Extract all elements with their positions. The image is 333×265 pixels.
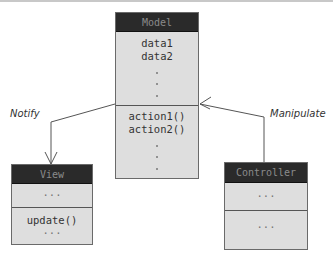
view-class-title: View (12, 165, 92, 184)
view-methods-section: update() ... (12, 207, 92, 244)
controller-attributes-section: ... (225, 183, 307, 210)
model-attribute: data1 (116, 37, 198, 49)
view-attributes-section: ... (12, 184, 92, 207)
view-methods-placeholder: ... (12, 224, 92, 236)
model-class-title: Model (116, 13, 198, 32)
view-class-box: View ... update() ... (11, 164, 93, 245)
controller-class-title: Controller (225, 163, 307, 183)
model-class-box: Model data1 data2 action1() action2() (115, 12, 199, 179)
ellipsis-dot (156, 83, 158, 85)
model-method: action1() (116, 110, 198, 122)
ellipsis-dot (156, 156, 158, 158)
model-attributes-section: data1 data2 (116, 32, 198, 105)
notify-edge-label: Notify (10, 108, 40, 119)
manipulate-edge-label: Manipulate (270, 108, 326, 119)
controller-attributes-placeholder: ... (225, 187, 307, 199)
view-attributes-placeholder: ... (12, 186, 92, 198)
model-methods-section: action1() action2() (116, 105, 198, 178)
model-method: action2() (116, 123, 198, 135)
ellipsis-dot (156, 145, 158, 147)
controller-methods-placeholder: ... (225, 218, 307, 230)
model-attribute: data2 (116, 50, 198, 62)
controller-methods-section: ... (225, 210, 307, 249)
controller-class-box: Controller ... ... (224, 162, 308, 250)
ellipsis-dot (156, 72, 158, 74)
ellipsis-dot (156, 168, 158, 170)
ellipsis-dot (156, 95, 158, 97)
